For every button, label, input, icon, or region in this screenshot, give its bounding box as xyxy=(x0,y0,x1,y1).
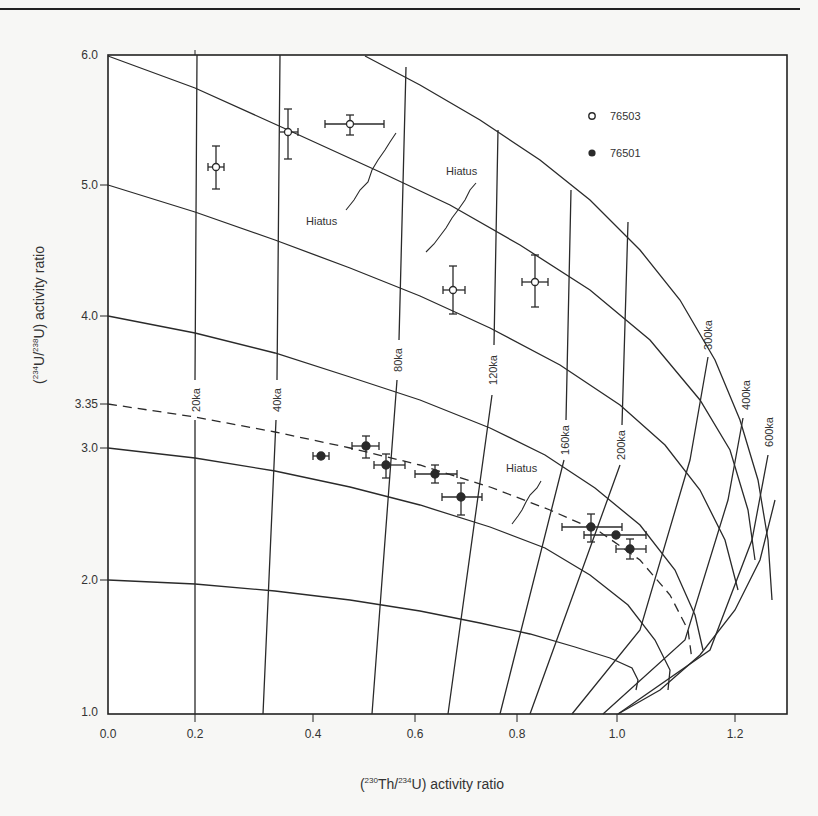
plot-area xyxy=(108,55,787,714)
isochron-label: 80ka xyxy=(392,347,404,372)
legend-label-76501: 76501 xyxy=(610,147,641,159)
y-tick-label: 4.0 xyxy=(81,309,98,323)
isochron-label: 160ka xyxy=(559,424,571,455)
y-tick-label: 3.35 xyxy=(75,397,99,411)
x-tick-label: 1.0 xyxy=(609,727,626,741)
y-axis-title: (234U/238U) activity ratio xyxy=(31,246,47,384)
open-circle-icon xyxy=(589,113,595,119)
isochron-label: 120ka xyxy=(487,354,499,385)
y-tick-label: 1.0 xyxy=(81,705,98,719)
hiatus-label: Hiatus xyxy=(506,462,538,474)
x-tick-label: 0.4 xyxy=(305,727,322,741)
x-tick-label: 0.0 xyxy=(100,727,117,741)
y-tick-label: 6.0 xyxy=(81,48,98,62)
filled-circle-icon xyxy=(588,149,595,156)
u-series-evolution-chart: 6.0 5.0 4.0 3.35 3.0 2.0 1.0 0.0 0.2 0.4… xyxy=(0,0,818,816)
x-tick-label: 0.6 xyxy=(407,727,424,741)
isochron-label: 600ka xyxy=(763,416,775,447)
hiatus-label: Hiatus xyxy=(446,165,478,177)
x-tick-label: 0.2 xyxy=(187,727,204,741)
isochron-label: 20ka xyxy=(190,387,202,412)
y-tick-label: 3.0 xyxy=(81,441,98,455)
x-axis-title: (230Th/234U) activity ratio xyxy=(360,776,504,792)
isochron-label: 300ka xyxy=(702,319,714,350)
y-axis xyxy=(100,185,108,580)
y-tick-label: 5.0 xyxy=(81,178,98,192)
x-tick-label: 1.2 xyxy=(727,727,744,741)
x-tick-label: 0.8 xyxy=(509,727,526,741)
isochron-label: 200ka xyxy=(615,429,627,460)
isochron-label: 40ka xyxy=(271,387,283,412)
legend-label-76503: 76503 xyxy=(610,110,641,122)
y-tick-label: 2.0 xyxy=(81,573,98,587)
isochron-label: 400ka xyxy=(740,379,752,410)
hiatus-label: Hiatus xyxy=(306,215,338,227)
